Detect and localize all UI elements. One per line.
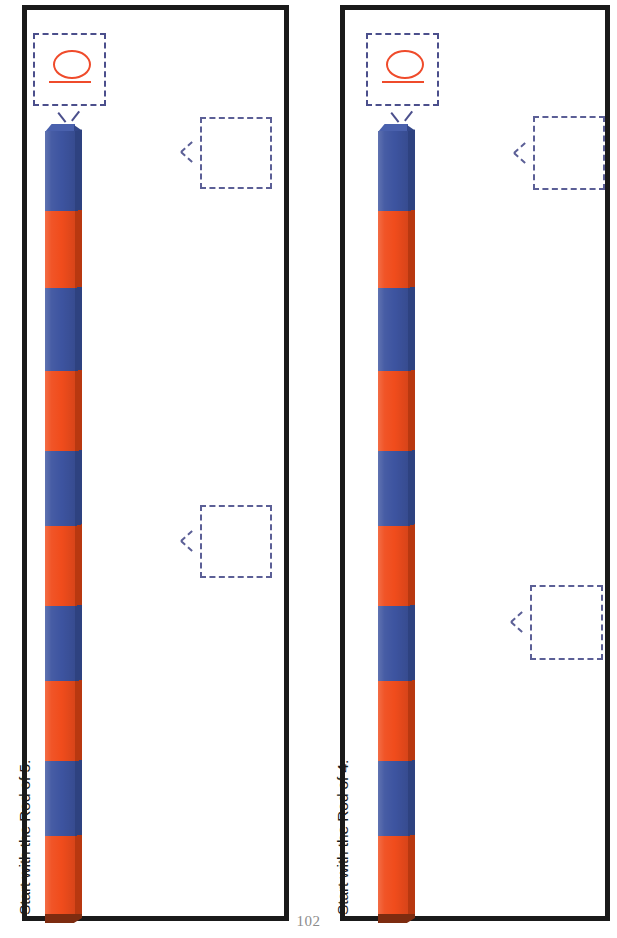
rod-segment-blue bbox=[45, 131, 75, 211]
cuisenaire-rod-right bbox=[378, 131, 408, 916]
arrow-stroke bbox=[404, 111, 413, 122]
answer-box-right-2[interactable] bbox=[530, 585, 603, 660]
rod-segment-orange bbox=[378, 836, 408, 916]
rod-segment-orange bbox=[45, 681, 75, 761]
start-value-box-right[interactable] bbox=[366, 33, 439, 106]
handwritten-zero-icon bbox=[47, 50, 93, 90]
zero-ring bbox=[386, 50, 424, 79]
rod-segment-blue bbox=[378, 288, 408, 371]
prompt-label-right: Start with the Rod of 4. bbox=[334, 760, 352, 915]
rod-segment-blue bbox=[45, 451, 75, 526]
rod-front-face bbox=[45, 131, 75, 916]
prompt-label-left: Start with the Rod of 5. bbox=[16, 760, 34, 915]
zero-underline bbox=[49, 81, 91, 83]
rod-segment-orange bbox=[45, 526, 75, 606]
left-arrow-icon-right-2 bbox=[510, 610, 534, 634]
start-value-inner-right bbox=[373, 40, 432, 99]
arrow-stroke bbox=[180, 540, 192, 552]
rod-segment-orange bbox=[45, 211, 75, 288]
rod-segment-blue bbox=[378, 451, 408, 526]
down-arrow-icon-left bbox=[60, 108, 80, 126]
worksheet-page: Start with the Rod of 5. Start with the … bbox=[0, 0, 617, 938]
rod-segment-orange bbox=[378, 681, 408, 761]
rod-segment-blue bbox=[45, 761, 75, 836]
rod-segment-blue bbox=[45, 606, 75, 681]
handwritten-zero-icon bbox=[380, 50, 426, 90]
start-value-inner-left bbox=[40, 40, 99, 99]
rod-segment-blue bbox=[378, 131, 408, 211]
left-arrow-icon-right-1 bbox=[513, 141, 537, 165]
answer-box-left-1[interactable] bbox=[200, 117, 272, 189]
rod-segment-orange bbox=[378, 211, 408, 288]
rod-segment-blue bbox=[45, 288, 75, 371]
arrow-stroke bbox=[513, 152, 525, 164]
rod-side-face bbox=[408, 130, 415, 916]
left-arrow-icon-left-2 bbox=[180, 529, 204, 553]
answer-box-right-1[interactable] bbox=[533, 116, 605, 190]
rod-segment-orange bbox=[378, 526, 408, 606]
rod-front-face bbox=[378, 131, 408, 916]
arrow-stroke bbox=[510, 621, 522, 633]
rod-segment-orange bbox=[45, 371, 75, 451]
cuisenaire-rod-left bbox=[45, 131, 75, 916]
rod-segment-blue bbox=[378, 606, 408, 681]
rod-segment-blue bbox=[378, 761, 408, 836]
down-arrow-icon-right bbox=[393, 108, 413, 126]
arrow-stroke bbox=[71, 111, 80, 122]
start-value-box-left[interactable] bbox=[33, 33, 106, 106]
arrow-stroke bbox=[180, 151, 192, 163]
left-arrow-icon-left-1 bbox=[180, 140, 204, 164]
rod-segment-orange bbox=[378, 371, 408, 451]
zero-ring bbox=[53, 50, 91, 79]
rod-side-face bbox=[75, 130, 82, 916]
answer-box-left-2[interactable] bbox=[200, 505, 272, 578]
page-number: 102 bbox=[0, 913, 617, 930]
zero-underline bbox=[382, 81, 424, 83]
rod-segment-orange bbox=[45, 836, 75, 916]
